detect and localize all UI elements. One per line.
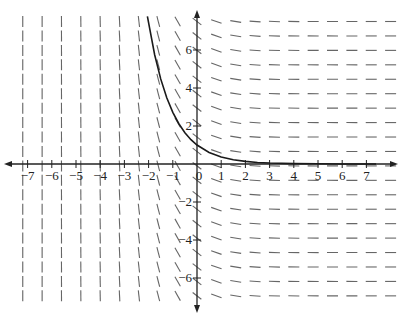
y-tick-label: 6 — [186, 42, 193, 57]
slope-mark — [157, 218, 160, 229]
slope-mark — [119, 290, 120, 301]
slope-mark — [119, 247, 120, 258]
slope-mark — [138, 146, 139, 157]
slope-mark — [250, 238, 261, 239]
slope-mark — [211, 222, 221, 226]
slope-mark — [119, 146, 120, 157]
slope-mark — [138, 276, 139, 287]
x-tick-label: −5 — [69, 168, 83, 183]
slope-mark — [250, 194, 261, 195]
slope-mark — [138, 290, 139, 301]
slope-mark — [157, 262, 160, 273]
slope-mark — [211, 63, 221, 67]
slope-mark — [157, 189, 160, 200]
slope-mark — [138, 117, 139, 128]
slope-mark — [138, 88, 139, 99]
slope-mark — [230, 281, 241, 283]
slope-mark — [211, 121, 221, 125]
slope-mark — [119, 132, 120, 143]
slope-mark — [157, 117, 160, 128]
slope-mark — [250, 180, 261, 181]
slope-mark — [157, 132, 160, 143]
slope-mark — [157, 233, 160, 244]
x-axis-left-arrow-icon — [4, 161, 12, 167]
x-tick-label: 6 — [339, 168, 346, 183]
slope-mark — [250, 50, 261, 51]
slope-mark — [230, 107, 241, 109]
slope-mark — [250, 93, 261, 94]
slope-mark — [230, 151, 241, 153]
slope-mark — [230, 208, 241, 210]
slope-mark — [157, 45, 160, 56]
slope-mark — [250, 209, 261, 210]
slope-mark — [119, 59, 120, 70]
slope-mark — [119, 88, 120, 99]
slope-mark — [230, 223, 241, 225]
slope-mark — [157, 31, 160, 42]
slope-mark — [119, 45, 120, 56]
slope-mark — [230, 35, 241, 37]
slope-mark — [230, 21, 241, 23]
slope-mark — [230, 165, 241, 167]
slope-mark — [230, 93, 241, 95]
slope-mark — [119, 16, 120, 27]
slope-mark — [250, 79, 261, 80]
x-tick-label: −6 — [45, 168, 59, 183]
slope-mark — [138, 247, 139, 258]
slope-mark — [175, 46, 180, 56]
slope-mark — [138, 233, 139, 244]
slope-mark — [230, 266, 241, 268]
slope-mark — [250, 281, 261, 282]
slope-mark — [250, 151, 261, 152]
slope-mark — [250, 267, 261, 268]
y-tick-label: −4 — [178, 232, 192, 247]
slope-mark — [211, 34, 221, 38]
slope-mark — [157, 247, 160, 258]
x-tick-label: −3 — [117, 168, 131, 183]
slope-mark — [230, 50, 241, 52]
y-tick-label: −6 — [178, 270, 192, 285]
slope-mark — [119, 30, 120, 41]
slope-mark — [175, 103, 180, 113]
slope-mark — [250, 108, 261, 109]
slope-mark — [211, 92, 221, 96]
slope-mark — [211, 207, 221, 211]
slope-mark — [211, 106, 221, 110]
slope-mark — [175, 147, 180, 157]
x-tick-label: 1 — [218, 168, 225, 183]
x-tick-label: 2 — [242, 168, 249, 183]
slope-mark — [230, 194, 241, 196]
slope-mark — [211, 150, 221, 154]
slope-mark — [211, 265, 221, 269]
slope-mark — [211, 251, 221, 255]
slope-mark — [119, 204, 120, 215]
slope-mark — [250, 122, 261, 123]
x-tick-label: 5 — [315, 168, 322, 183]
slope-mark — [230, 179, 241, 181]
slope-mark — [119, 218, 120, 229]
slope-mark — [211, 294, 221, 298]
slope-mark — [211, 20, 221, 24]
slope-mark — [230, 64, 241, 66]
solution-curve — [147, 16, 376, 164]
slope-mark — [230, 237, 241, 239]
slope-mark — [175, 74, 180, 84]
slope-mark — [211, 77, 221, 81]
slope-mark — [119, 103, 120, 114]
slope-mark — [138, 30, 139, 41]
x-tick-label: −4 — [93, 168, 107, 183]
slope-mark — [250, 64, 261, 65]
y-tick-label: 4 — [186, 80, 193, 95]
slope-mark — [119, 74, 120, 85]
slope-mark — [157, 88, 160, 99]
slope-mark — [175, 17, 180, 27]
slope-mark — [138, 132, 139, 143]
slope-mark — [157, 291, 160, 302]
slope-mark — [157, 16, 160, 27]
y-tick-label: 2 — [186, 118, 193, 133]
slope-mark — [211, 135, 221, 139]
slope-mark — [138, 204, 139, 215]
x-tick-label: 4 — [291, 168, 298, 183]
slope-mark — [138, 74, 139, 85]
slope-mark — [250, 137, 261, 138]
